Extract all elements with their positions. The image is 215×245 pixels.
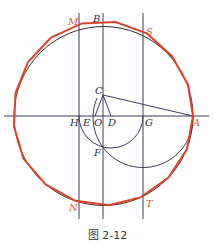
label-M: M [68,17,78,27]
label-N: N [69,203,78,213]
label-O: O [94,118,102,128]
segment-CA [103,95,193,116]
label-B: B [93,14,100,24]
label-A: A [193,118,200,128]
label-E: E [83,118,90,128]
segment-CE [95,95,103,116]
label-D: D [108,118,116,128]
label-T: T [146,199,153,209]
label-S: S [146,27,153,37]
label-C: C [95,86,103,96]
segment-CD [103,95,111,116]
label-F: F [94,148,101,158]
figure-caption: 图 2-12 [0,226,215,242]
label-H: H [70,118,79,128]
label-G: G [145,118,153,128]
